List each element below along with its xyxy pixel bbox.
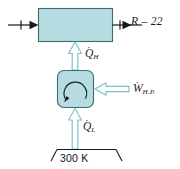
q-high-label: ˙QH (85, 48, 99, 60)
q-high-arrow-icon (69, 42, 82, 70)
reservoir-hatch-right (116, 150, 122, 162)
q-low-dot-accent: ˙ (85, 118, 89, 129)
refrigerant-label: R – 22 (131, 16, 163, 28)
reservoir-hatch-left (51, 150, 57, 162)
heat-pump-diagram: R – 22 ˙QH ˙QL ˙WH.P. 300 K (0, 0, 180, 169)
reservoir-temperature-label: 300 K (60, 152, 88, 164)
work-input-arrow-icon (95, 83, 129, 96)
q-low-arrow-icon (69, 109, 82, 150)
work-input-label: ˙WH.P. (133, 83, 155, 95)
q-high-subscript: H (93, 53, 98, 61)
work-symbol-wrap: ˙W (133, 83, 143, 95)
q-high-dot-accent: ˙ (87, 45, 91, 56)
inlet-arrowhead-icon (30, 21, 39, 29)
condenser-box (39, 9, 113, 42)
work-subscript: H.P. (143, 88, 156, 96)
heat-pump-body (58, 71, 94, 108)
work-dot-accent: ˙ (136, 80, 140, 91)
q-low-subscript: L (91, 126, 95, 134)
q-low-label: ˙QL (83, 121, 95, 133)
